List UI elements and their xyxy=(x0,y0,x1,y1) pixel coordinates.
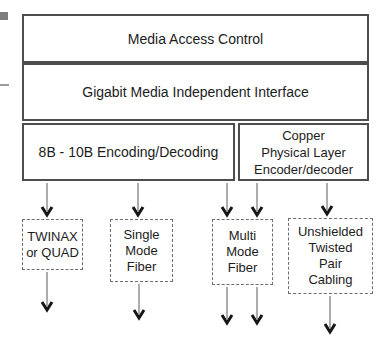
media-label-line: Unshielded xyxy=(298,224,363,240)
down-arrow-to-utp xyxy=(322,183,332,214)
media-box-multi-mode-fiber: Multi Mode Fiber xyxy=(212,219,273,285)
media-label-line: Fiber xyxy=(228,260,258,276)
layer-label-gmii: Gigabit Media Independent Interface xyxy=(82,84,309,100)
down-arrow-from-single-mode xyxy=(134,284,144,318)
down-arrow-from-twinax xyxy=(42,272,52,310)
layer-box-gigabit-media-independent-interface: Gigabit Media Independent Interface xyxy=(22,63,369,121)
media-label-line: Mode xyxy=(125,243,158,259)
layer-box-media-access-control: Media Access Control xyxy=(22,14,369,63)
page-edge-mark-lower xyxy=(0,84,9,86)
media-label-line: or QUAD xyxy=(26,245,79,261)
layer-label-encoding: 8B - 10B Encoding/Decoding xyxy=(39,144,219,160)
copper-label-line: Encoder/decoder xyxy=(254,161,353,178)
copper-label-line: Copper xyxy=(282,127,325,144)
media-label-line: Twisted xyxy=(308,240,352,256)
copper-label-line: Physical Layer xyxy=(261,144,346,161)
layer-box-8b-10b-encoding-decoding: 8B - 10B Encoding/Decoding xyxy=(22,123,235,181)
down-arrow-to-single-mode xyxy=(133,183,143,215)
media-label-line: Fiber xyxy=(127,259,157,275)
layer-label-mac: Media Access Control xyxy=(128,31,263,47)
media-label-line: TWINAX xyxy=(27,229,78,245)
media-box-twinax-or-quad: TWINAX or QUAD xyxy=(22,219,83,270)
media-label-line: Mode xyxy=(226,244,259,260)
down-arrow-to-multi-mode-left xyxy=(222,183,232,215)
media-label-line: Multi xyxy=(229,228,256,244)
media-box-unshielded-twisted-pair: Unshielded Twisted Pair Cabling xyxy=(288,218,373,294)
layer-box-copper-physical-layer: Copper Physical Layer Encoder/decoder xyxy=(238,123,369,181)
media-label-line: Cabling xyxy=(308,272,352,288)
media-label-line: Single xyxy=(123,227,159,243)
down-arrow-from-multi-mode-right xyxy=(252,287,262,323)
media-box-single-mode-fiber: Single Mode Fiber xyxy=(110,219,173,282)
down-arrow-from-utp xyxy=(325,296,335,332)
gigabit-ethernet-layer-diagram: Media Access Control Gigabit Media Indep… xyxy=(0,0,392,344)
down-arrow-from-multi-mode-left xyxy=(222,287,232,323)
media-label-line: Pair xyxy=(319,256,342,272)
page-edge-mark-top xyxy=(0,12,8,20)
down-arrow-to-twinax xyxy=(42,183,52,215)
down-arrow-to-multi-mode-right xyxy=(252,183,262,215)
